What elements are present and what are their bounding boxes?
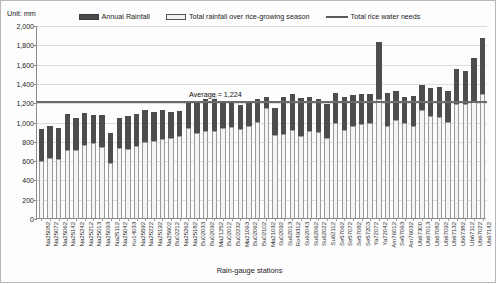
bar-season-rainfall[interactable] <box>272 135 277 218</box>
bar-group[interactable] <box>316 25 321 218</box>
bar-season-rainfall[interactable] <box>142 142 147 218</box>
bar-group[interactable] <box>168 25 173 218</box>
bar-season-rainfall[interactable] <box>151 141 156 218</box>
bar-season-rainfall[interactable] <box>229 127 234 218</box>
bar-season-rainfall[interactable] <box>125 149 130 218</box>
bar-group[interactable] <box>186 25 191 218</box>
bar-group[interactable] <box>290 25 295 218</box>
bar-group[interactable] <box>238 25 243 218</box>
bar-group[interactable] <box>212 25 217 218</box>
bar-group[interactable] <box>454 25 459 218</box>
bar-season-rainfall[interactable] <box>367 123 372 218</box>
bar-season-rainfall[interactable] <box>419 110 424 218</box>
bar-group[interactable] <box>419 25 424 218</box>
bar-season-rainfall[interactable] <box>47 158 52 218</box>
bar-group[interactable] <box>367 25 372 218</box>
bar-group[interactable] <box>177 25 182 218</box>
bar-group[interactable] <box>471 25 476 218</box>
bar-season-rainfall[interactable] <box>350 126 355 218</box>
bar-season-rainfall[interactable] <box>160 139 165 218</box>
bar-season-rainfall[interactable] <box>99 147 104 218</box>
bar-season-rainfall[interactable] <box>402 123 407 218</box>
bar-group[interactable] <box>246 25 251 218</box>
bar-season-rainfall[interactable] <box>168 138 173 218</box>
bar-group[interactable] <box>82 25 87 218</box>
bar-group[interactable] <box>376 25 381 218</box>
bar-season-rainfall[interactable] <box>307 131 312 218</box>
bar-group[interactable] <box>160 25 165 218</box>
bar-season-rainfall[interactable] <box>437 117 442 218</box>
bar-group[interactable] <box>255 25 260 218</box>
bar-group[interactable] <box>298 25 303 218</box>
bar-season-rainfall[interactable] <box>471 101 476 218</box>
bar-group[interactable] <box>324 25 329 218</box>
bar-group[interactable] <box>281 25 286 218</box>
bar-season-rainfall[interactable] <box>238 129 243 218</box>
bar-group[interactable] <box>272 25 277 218</box>
bar-season-rainfall[interactable] <box>411 126 416 218</box>
bar-season-rainfall[interactable] <box>91 143 96 218</box>
bar-season-rainfall[interactable] <box>177 136 182 218</box>
bar-season-rainfall[interactable] <box>298 136 303 218</box>
bar-season-rainfall[interactable] <box>186 128 191 218</box>
bar-season-rainfall[interactable] <box>203 131 208 218</box>
bar-group[interactable] <box>350 25 355 218</box>
bar-group[interactable] <box>445 25 450 218</box>
bar-season-rainfall[interactable] <box>65 150 70 218</box>
bar-group[interactable] <box>359 25 364 218</box>
bar-season-rainfall[interactable] <box>82 145 87 218</box>
bar-season-rainfall[interactable] <box>73 150 78 218</box>
bar-season-rainfall[interactable] <box>324 138 329 218</box>
bar-group[interactable] <box>203 25 208 218</box>
bar-season-rainfall[interactable] <box>134 146 139 218</box>
bar-season-rainfall[interactable] <box>385 126 390 218</box>
bar-group[interactable] <box>229 25 234 218</box>
bar-season-rainfall[interactable] <box>212 131 217 218</box>
bar-group[interactable] <box>73 25 78 218</box>
bar-group[interactable] <box>47 25 52 218</box>
bar-season-rainfall[interactable] <box>454 104 459 218</box>
bar-season-rainfall[interactable] <box>316 132 321 218</box>
bar-group[interactable] <box>134 25 139 218</box>
bar-group[interactable] <box>428 25 433 218</box>
bar-season-rainfall[interactable] <box>480 94 485 218</box>
bar-group[interactable] <box>411 25 416 218</box>
bar-season-rainfall[interactable] <box>246 126 251 218</box>
bar-group[interactable] <box>91 25 96 218</box>
bar-group[interactable] <box>142 25 147 218</box>
bar-group[interactable] <box>99 25 104 218</box>
bar-season-rainfall[interactable] <box>117 148 122 218</box>
bar-group[interactable] <box>220 25 225 218</box>
bar-group[interactable] <box>402 25 407 218</box>
bar-group[interactable] <box>333 25 338 218</box>
bar-group[interactable] <box>151 25 156 218</box>
bar-group[interactable] <box>385 25 390 218</box>
bar-season-rainfall[interactable] <box>108 163 113 218</box>
bar-season-rainfall[interactable] <box>39 161 44 218</box>
bar-season-rainfall[interactable] <box>428 116 433 218</box>
bar-group[interactable] <box>56 25 61 218</box>
bar-group[interactable] <box>117 25 122 218</box>
bar-group[interactable] <box>437 25 442 218</box>
bar-group[interactable] <box>393 25 398 218</box>
bar-group[interactable] <box>39 25 44 218</box>
bar-season-rainfall[interactable] <box>194 133 199 218</box>
bar-season-rainfall[interactable] <box>290 130 295 218</box>
bar-season-rainfall[interactable] <box>376 99 381 218</box>
bar-season-rainfall[interactable] <box>333 123 338 218</box>
bar-season-rainfall[interactable] <box>445 122 450 219</box>
bar-season-rainfall[interactable] <box>255 122 260 219</box>
bar-season-rainfall[interactable] <box>342 130 347 218</box>
bar-season-rainfall[interactable] <box>220 128 225 218</box>
bar-group[interactable] <box>480 25 485 218</box>
bar-group[interactable] <box>463 25 468 218</box>
bar-season-rainfall[interactable] <box>359 124 364 218</box>
bar-season-rainfall[interactable] <box>281 134 286 218</box>
bar-group[interactable] <box>65 25 70 218</box>
bar-group[interactable] <box>125 25 130 218</box>
bar-season-rainfall[interactable] <box>393 120 398 218</box>
bar-group[interactable] <box>307 25 312 218</box>
bar-group[interactable] <box>194 25 199 218</box>
bar-group[interactable] <box>342 25 347 218</box>
bar-group[interactable] <box>108 25 113 218</box>
